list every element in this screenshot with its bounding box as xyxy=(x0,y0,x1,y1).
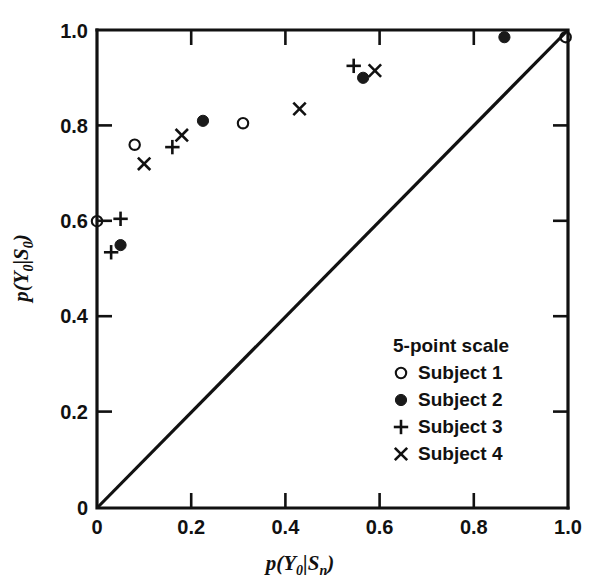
y-axis-title-p: p xyxy=(9,291,33,304)
data-point-subject-1 xyxy=(129,140,139,150)
y-axis-ticks xyxy=(97,125,112,411)
data-point-subject-3 xyxy=(165,140,179,154)
legend-label-subject-3: Subject 3 xyxy=(418,416,502,437)
data-point-subject-4 xyxy=(138,158,150,170)
x-axis-title-close: ) xyxy=(325,551,334,575)
data-point-subject-4 xyxy=(176,129,188,141)
data-point-subject-2 xyxy=(115,240,126,251)
y-axis-title-close: ) xyxy=(9,234,33,243)
x-ticklabel-1.0: 1.0 xyxy=(554,516,582,538)
x-ticklabel-0.4: 0.4 xyxy=(271,516,300,538)
y-axis-title-Ssub: 0 xyxy=(21,241,36,248)
x-ticklabel-0.8: 0.8 xyxy=(460,516,488,538)
legend-marker-subject-2 xyxy=(395,394,406,405)
data-point-subject-4 xyxy=(369,64,381,76)
x-axis-title: p(Y0|Sn) xyxy=(264,551,334,578)
x-ticklabel-0.2: 0.2 xyxy=(177,516,205,538)
x-axis-title-Ysub: 0 xyxy=(296,563,303,578)
x-axis-title-S: S xyxy=(308,551,320,575)
scatter-plot-figure: 1.0 0.8 0.6 0.4 0.2 0 0 0.2 0.4 0.6 0.8 … xyxy=(0,0,591,583)
data-point-subject-1 xyxy=(238,118,248,128)
x-ticklabel-0: 0 xyxy=(91,516,102,538)
data-point-subject-3 xyxy=(113,212,127,226)
x-axis-title-Ssub: n xyxy=(319,563,327,578)
plot-svg: 1.0 0.8 0.6 0.4 0.2 0 0 0.2 0.4 0.6 0.8 … xyxy=(0,0,591,583)
y-axis-title: p(Y0|S0) xyxy=(9,234,36,304)
svg-text:p(Y0|Sn): p(Y0|Sn) xyxy=(264,551,334,578)
x-tick-labels: 0 0.2 0.4 0.6 0.8 1.0 xyxy=(91,516,581,538)
y-axis-title-S: S xyxy=(9,248,33,260)
legend-title: 5-point scale xyxy=(393,335,509,356)
legend-label-subject-4: Subject 4 xyxy=(418,443,503,464)
x-axis-title-p: p xyxy=(264,551,277,575)
y-axis-title-Ysub: 0 xyxy=(21,264,36,271)
x-ticklabel-0.6: 0.6 xyxy=(366,516,394,538)
data-point-subject-2 xyxy=(499,32,510,43)
x-axis-top-ticks xyxy=(191,30,474,45)
legend-marker-subject-3 xyxy=(394,420,408,434)
y-ticklabel-0.8: 0.8 xyxy=(60,115,88,137)
x-axis-ticks xyxy=(191,493,474,508)
y-ticklabel-0.2: 0.2 xyxy=(60,401,88,423)
y-ticklabel-0.6: 0.6 xyxy=(60,210,88,232)
legend-label-subject-2: Subject 2 xyxy=(418,389,502,410)
y-tick-labels: 1.0 0.8 0.6 0.4 0.2 0 xyxy=(60,20,89,519)
y-ticklabel-0.4: 0.4 xyxy=(60,305,89,327)
chart-legend: 5-point scale Subject 1Subject 2Subject … xyxy=(393,335,509,464)
legend-label-subject-1: Subject 1 xyxy=(418,362,503,383)
legend-marker-subject-4 xyxy=(395,448,407,460)
legend-marker-subject-1 xyxy=(396,368,406,378)
y-axis-right-ticks xyxy=(553,125,568,411)
data-point-subject-3 xyxy=(346,59,360,73)
y-ticklabel-1.0: 1.0 xyxy=(60,20,88,42)
data-point-subject-4 xyxy=(293,103,305,115)
y-ticklabel-0: 0 xyxy=(77,497,88,519)
legend-entries: Subject 1Subject 2Subject 3Subject 4 xyxy=(394,362,503,464)
svg-text:p(Y0|S0): p(Y0|S0) xyxy=(9,234,36,304)
data-point-subject-2 xyxy=(197,115,208,126)
data-point-subject-2 xyxy=(358,72,369,83)
data-markers-layer xyxy=(92,32,571,260)
